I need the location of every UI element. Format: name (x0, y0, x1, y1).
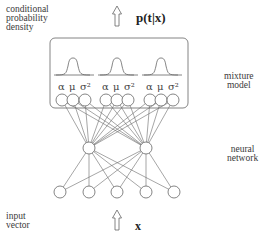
hidden-layer (83, 142, 152, 154)
gaussian-curve-icon (54, 58, 94, 75)
input-layer (54, 186, 180, 198)
svg-text:μ: μ (69, 81, 76, 92)
hidden-node (140, 142, 152, 154)
mixture-parameter-labels: αμσ² αμσ² αμσ² (58, 81, 179, 92)
svg-text:σ²: σ² (80, 81, 91, 92)
input-node (140, 186, 152, 198)
svg-text:α: α (58, 81, 65, 92)
svg-text:α: α (102, 81, 109, 92)
gaussian-curve-icon (98, 58, 138, 75)
output-node (79, 94, 91, 106)
hidden-node (83, 142, 95, 154)
svg-text:σ²: σ² (124, 81, 135, 92)
output-node (155, 94, 167, 106)
output-node (167, 94, 179, 106)
output-arrow-icon (113, 6, 122, 26)
input-node (111, 186, 123, 198)
network-diagram: αμσ² αμσ² αμσ² (0, 0, 268, 241)
output-node (56, 94, 68, 106)
input-arrow-icon (113, 210, 122, 230)
gaussian-curve-icon (142, 58, 182, 75)
svg-text:μ: μ (113, 81, 120, 92)
output-node (122, 94, 134, 106)
svg-text:α: α (146, 81, 153, 92)
input-node (54, 186, 66, 198)
svg-text:μ: μ (157, 81, 164, 92)
output-node (67, 94, 79, 106)
output-layer (56, 94, 179, 106)
output-node (100, 94, 112, 106)
input-node (168, 186, 180, 198)
output-node (144, 94, 156, 106)
output-node (111, 94, 123, 106)
svg-text:σ²: σ² (168, 81, 179, 92)
input-node (83, 186, 95, 198)
